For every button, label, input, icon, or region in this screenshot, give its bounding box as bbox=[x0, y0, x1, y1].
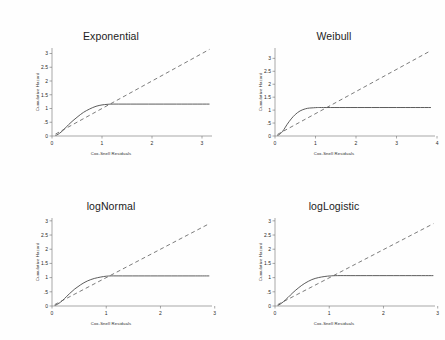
y-tick-label: 1.5 bbox=[41, 92, 48, 98]
y-tick-label: 0 bbox=[268, 303, 271, 309]
y-tick-label: 1.5 bbox=[264, 94, 271, 100]
x-tick-label: 2 bbox=[382, 310, 385, 316]
y-tick-label: 3 bbox=[268, 55, 271, 61]
panel-title-loglogistic: logLogistic bbox=[223, 200, 445, 212]
y-tick-label: 3 bbox=[45, 50, 48, 56]
reference-line bbox=[56, 49, 210, 134]
y-tick-label: .5 bbox=[267, 289, 271, 295]
x-tick-label: 3 bbox=[436, 310, 439, 316]
y-tick-label: 2.5 bbox=[264, 232, 271, 238]
y-tick-label: 3 bbox=[45, 218, 48, 224]
y-tick-label: 0 bbox=[268, 133, 271, 139]
y-tick-label: 1 bbox=[45, 274, 48, 280]
y-tick-label: 2.5 bbox=[41, 232, 48, 238]
panel-exponential: 0.511.522.530123 Exponential Cumulative … bbox=[0, 0, 222, 170]
plot-area-loglogistic: 0.511.522.530123 bbox=[223, 170, 445, 340]
y-tick-label: 1 bbox=[268, 107, 271, 113]
x-tick-label: 0 bbox=[51, 310, 54, 316]
cumulative-hazard-curve bbox=[56, 104, 210, 135]
x-tick-label: 1 bbox=[105, 310, 108, 316]
x-tick-label: 2 bbox=[151, 140, 154, 146]
cox-snell-residual-figure: 0.511.522.530123 Exponential Cumulative … bbox=[0, 0, 445, 340]
plot-area-weibull: 0.511.522.5301234 bbox=[223, 0, 445, 170]
panel-title-exponential: Exponential bbox=[0, 30, 222, 42]
reference-line bbox=[277, 51, 431, 135]
x-axis-label-lognormal: Cox-Snell Residuals bbox=[0, 321, 222, 326]
x-tick-label: 0 bbox=[51, 140, 54, 146]
y-tick-label: 2 bbox=[268, 246, 271, 252]
panel-loglogistic: 0.511.522.530123 logLogistic Cumulative … bbox=[223, 170, 445, 340]
panel-weibull: 0.511.522.5301234 Weibull Cumulative Haz… bbox=[223, 0, 445, 170]
cumulative-hazard-curve bbox=[277, 108, 431, 136]
x-tick-label: 3 bbox=[201, 140, 204, 146]
y-axis-label-exponential: Cumulative Hazard bbox=[35, 73, 40, 111]
y-tick-label: 1 bbox=[45, 105, 48, 111]
reference-line bbox=[278, 224, 434, 305]
x-tick-label: 1 bbox=[101, 140, 104, 146]
y-tick-label: 2.5 bbox=[41, 64, 48, 70]
x-axis-label-exponential: Cox-Snell Residuals bbox=[0, 151, 222, 156]
y-tick-label: 1.5 bbox=[264, 260, 271, 266]
plot-area-exponential: 0.511.522.530123 bbox=[0, 0, 222, 170]
x-axis-label-weibull: Cox-Snell Residuals bbox=[223, 151, 445, 156]
y-tick-label: 2 bbox=[45, 78, 48, 84]
x-axis-label-loglogistic: Cox-Snell Residuals bbox=[223, 321, 445, 326]
y-tick-label: 2 bbox=[268, 81, 271, 87]
y-tick-label: 2 bbox=[45, 246, 48, 252]
x-tick-label: 0 bbox=[274, 140, 277, 146]
y-tick-label: .5 bbox=[44, 119, 48, 125]
y-tick-label: 1 bbox=[268, 274, 271, 280]
y-axis-label-loglogistic: Cumulative Hazard bbox=[258, 243, 263, 281]
y-tick-label: .5 bbox=[267, 120, 271, 126]
x-tick-label: 1 bbox=[328, 310, 331, 316]
y-axis-label-lognormal: Cumulative Hazard bbox=[35, 243, 40, 281]
x-tick-label: 3 bbox=[395, 140, 398, 146]
panel-lognormal: 0.511.522.530123 logNormal Cumulative Ha… bbox=[0, 170, 222, 340]
y-tick-label: .5 bbox=[44, 289, 48, 295]
y-tick-label: 0 bbox=[45, 133, 48, 139]
y-tick-label: 0 bbox=[45, 303, 48, 309]
x-tick-label: 1 bbox=[314, 140, 317, 146]
x-tick-label: 3 bbox=[213, 310, 216, 316]
cumulative-hazard-curve bbox=[278, 276, 434, 306]
cumulative-hazard-curve bbox=[55, 276, 210, 306]
x-tick-label: 2 bbox=[355, 140, 358, 146]
x-tick-label: 0 bbox=[274, 310, 277, 316]
x-tick-label: 4 bbox=[436, 140, 439, 146]
y-axis-label-weibull: Cumulative Hazard bbox=[258, 73, 263, 111]
reference-line bbox=[55, 224, 210, 305]
y-tick-label: 1.5 bbox=[41, 260, 48, 266]
x-tick-label: 2 bbox=[159, 310, 162, 316]
panel-title-weibull: Weibull bbox=[223, 30, 445, 42]
panel-title-lognormal: logNormal bbox=[0, 200, 222, 212]
y-tick-label: 2.5 bbox=[264, 68, 271, 74]
plot-area-lognormal: 0.511.522.530123 bbox=[0, 170, 222, 340]
y-tick-label: 3 bbox=[268, 218, 271, 224]
